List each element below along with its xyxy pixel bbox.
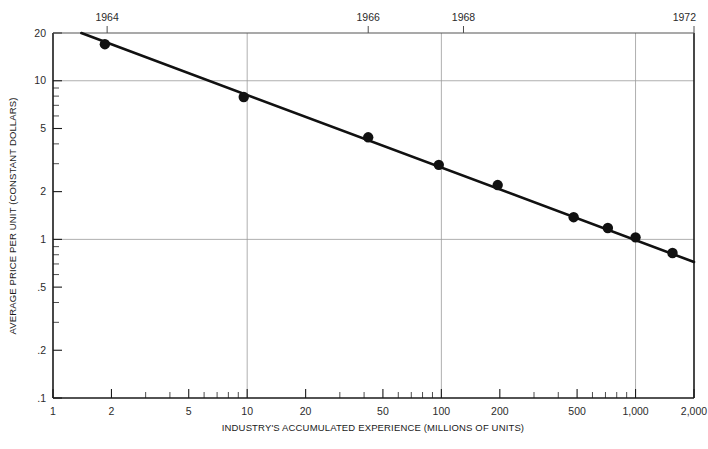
y-tick-label: .5: [37, 281, 46, 293]
x-tick-label: 5: [186, 405, 192, 417]
plot-background: [53, 33, 694, 398]
experience-curve-chart: 1251020501002005001,0002,000 2010521.5.2…: [0, 0, 708, 449]
chart-svg: 1251020501002005001,0002,000 2010521.5.2…: [0, 0, 708, 449]
y-tick-label: 2: [40, 185, 46, 197]
year-axis-tick-labels: 1964196619681972: [95, 11, 696, 23]
y-tick-label: 1: [40, 233, 46, 245]
x-tick-label: 2: [109, 405, 115, 417]
y-tick-label: .2: [37, 344, 46, 356]
x-tick-label: 1: [50, 405, 56, 417]
data-point: [667, 248, 677, 258]
x-tick-label: 200: [491, 405, 509, 417]
data-point: [363, 132, 373, 142]
year-tick-label: 1968: [452, 11, 476, 23]
x-tick-label: 100: [433, 405, 451, 417]
x-axis-tick-labels: 1251020501002005001,0002,000: [50, 405, 707, 417]
x-tick-label: 2,000: [681, 405, 707, 417]
x-tick-label: 1,000: [622, 405, 648, 417]
year-axis-ticks: [107, 26, 694, 33]
year-tick-label: 1972: [673, 11, 697, 23]
data-point: [568, 212, 578, 222]
year-tick-label: 1964: [95, 11, 119, 23]
data-point: [239, 92, 249, 102]
data-point: [492, 180, 502, 190]
x-tick-label: 20: [300, 405, 312, 417]
y-axis-title: AVERAGE PRICE PER UNIT (CONSTANT DOLLARS…: [7, 97, 18, 334]
y-tick-label: 5: [40, 122, 46, 134]
x-tick-label: 500: [568, 405, 586, 417]
year-tick-label: 1966: [357, 11, 381, 23]
x-tick-label: 10: [241, 405, 253, 417]
data-point: [434, 160, 444, 170]
y-tick-label: 20: [34, 27, 46, 39]
x-tick-label: 50: [377, 405, 389, 417]
data-point: [630, 232, 640, 242]
y-tick-label: 10: [34, 74, 46, 86]
y-tick-label: .1: [37, 392, 46, 404]
x-axis-title: INDUSTRY'S ACCUMULATED EXPERIENCE (MILLI…: [222, 422, 524, 433]
data-point: [603, 223, 613, 233]
y-axis-tick-labels: 2010521.5.2.1: [34, 27, 46, 404]
data-point: [100, 39, 110, 49]
